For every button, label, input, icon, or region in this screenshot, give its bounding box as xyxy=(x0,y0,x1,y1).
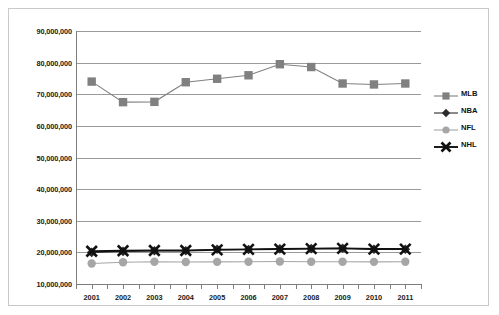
y-axis-tick-label: 90,000,000 xyxy=(36,27,72,36)
x-axis-tick xyxy=(123,284,124,289)
x-axis-tick-label: 2011 xyxy=(397,293,413,302)
x-axis-tick-label: 2008 xyxy=(303,293,319,302)
y-axis-tick-label: 70,000,000 xyxy=(36,90,72,99)
x-axis-tick xyxy=(217,284,218,289)
y-axis-tick-label: 60,000,000 xyxy=(36,121,72,130)
x-axis-tick xyxy=(154,284,155,289)
x-axis-tick-label: 2009 xyxy=(334,293,350,302)
series-mlb xyxy=(87,60,409,106)
x-axis-tick xyxy=(405,284,406,289)
chart-legend: MLBNBANFLNHL xyxy=(433,85,493,153)
x-axis-tick xyxy=(390,284,391,289)
y-axis-tick-label: 80,000,000 xyxy=(36,58,72,67)
x-axis-tick xyxy=(249,284,250,289)
x-axis-tick xyxy=(264,284,265,289)
x-axis-tick-label: 2001 xyxy=(84,293,100,302)
series-nfl xyxy=(87,257,409,267)
x-axis-tick-label: 2010 xyxy=(366,293,382,302)
x-axis-tick xyxy=(76,284,77,289)
x-axis-tick-label: 2004 xyxy=(178,293,194,302)
legend-label: NBA xyxy=(461,106,477,115)
x-axis-tick xyxy=(374,284,375,289)
legend-label: NHL xyxy=(461,140,477,149)
y-axis-tick-label: 40,000,000 xyxy=(36,185,72,194)
series-canvas xyxy=(76,31,421,284)
x-axis-tick xyxy=(343,284,344,289)
legend-label: NFL xyxy=(461,123,476,132)
x-axis-tick xyxy=(92,284,93,289)
y-axis-labels: 90,000,00080,000,00070,000,00060,000,000… xyxy=(9,31,72,284)
cross-marker-icon xyxy=(433,139,459,151)
x-axis-tick xyxy=(233,284,234,289)
x-axis-tick-label: 2005 xyxy=(209,293,225,302)
circle-marker-icon xyxy=(433,122,459,134)
x-axis-tick-label: 2002 xyxy=(115,293,131,302)
x-axis-tick xyxy=(170,284,171,289)
y-axis-tick-label: 50,000,000 xyxy=(36,153,72,162)
x-axis-tick xyxy=(201,284,202,289)
x-axis-tick-label: 2007 xyxy=(272,293,288,302)
x-axis-tick xyxy=(139,284,140,289)
x-axis-tick xyxy=(358,284,359,289)
y-axis-tick-label: 20,000,000 xyxy=(36,248,72,257)
legend-item-nhl[interactable]: NHL xyxy=(433,136,493,153)
x-axis-tick xyxy=(280,284,281,289)
chart-frame: 90,000,00080,000,00070,000,00060,000,000… xyxy=(8,8,489,306)
legend-label: MLB xyxy=(461,89,477,98)
legend-item-nba[interactable]: NBA xyxy=(433,102,493,119)
legend-item-mlb[interactable]: MLB xyxy=(433,85,493,102)
diamond-marker-icon xyxy=(433,105,459,117)
y-axis-tick-label: 10,000,000 xyxy=(36,280,72,289)
x-axis-tick xyxy=(107,284,108,289)
x-axis-tick xyxy=(327,284,328,289)
x-axis-tick xyxy=(311,284,312,289)
y-axis-tick-label: 30,000,000 xyxy=(36,216,72,225)
legend-item-nfl[interactable]: NFL xyxy=(433,119,493,136)
x-axis-tick xyxy=(296,284,297,289)
square-marker-icon xyxy=(433,88,459,100)
x-axis-tick xyxy=(186,284,187,289)
x-axis-tick-label: 2003 xyxy=(146,293,162,302)
x-axis-tick xyxy=(421,284,422,289)
plot-area: 2001200220032004200520062007200820092010… xyxy=(76,31,421,284)
x-axis-tick-label: 2006 xyxy=(240,293,256,302)
